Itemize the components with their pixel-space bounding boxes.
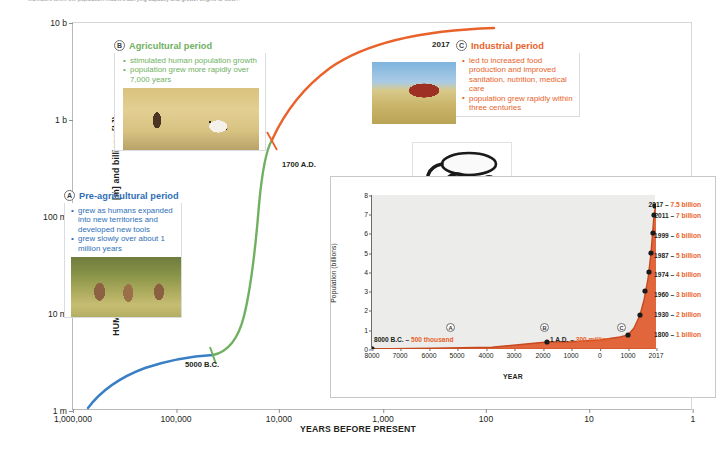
inset-y-tick: 3 (364, 288, 372, 295)
milestone-label: 1960 – 3 billion (654, 291, 701, 298)
inset-x-axis-label: YEAR (371, 373, 655, 380)
inset-badge-a: A (446, 323, 455, 332)
y-axis-tick: 10 b (50, 18, 73, 28)
callout-bullet: grew as humans expanded into new territo… (71, 206, 177, 234)
inset-chart: 8 7 6 5 4 3 2 1 0 8000 7000 6000 5000 40… (330, 176, 716, 398)
inset-x-tick: 2000 (535, 348, 550, 359)
inset-annotation-8000bc: 8000 B.C. – 500 thousand (374, 336, 454, 343)
callout-industrial: C Industrial period led to increased foo… (456, 40, 580, 117)
callout-bullets: led to increased food production and imp… (462, 56, 575, 112)
curve-tag-1700ad: 1700 A.D. (282, 160, 316, 169)
curve-tag-2017: 2017 (432, 40, 450, 49)
x-axis-tick: 100,000 (160, 409, 191, 424)
inset-badge-c: C (617, 323, 626, 332)
x-axis-tick: 1,000 (372, 409, 394, 424)
y-axis-tick: 1 b (55, 115, 73, 125)
top-caption-text: increases when the population reaches ca… (28, 0, 648, 7)
inset-badge-b: B (540, 323, 549, 332)
inset-x-tick: 7000 (392, 348, 407, 359)
callout-badge-a: A (64, 190, 75, 201)
inset-y-tick: 7 (364, 211, 372, 218)
callout-bullets: stimulated human population growth popul… (123, 56, 261, 84)
egyptian-farming-photo (123, 88, 259, 150)
inset-x-tick: 2017 (648, 348, 663, 359)
milestone-label: 1800 – 1 billion (654, 331, 701, 338)
x-axis-tick: 1,000,000 (54, 409, 92, 424)
figure-root: increases when the population reaches ca… (0, 0, 716, 452)
callout-pre-agricultural: A Pre-agricultural period grew as humans… (64, 190, 182, 318)
inset-y-tick: 6 (364, 230, 372, 237)
x-axis-tick: 10 (584, 409, 594, 424)
x-axis-tick: 1 (691, 409, 696, 424)
callout-bullets: grew as humans expanded into new territo… (71, 206, 177, 253)
hunter-gatherers-photo (71, 257, 181, 317)
callout-title: Agricultural period (129, 41, 212, 51)
inset-y-tick: 4 (364, 269, 372, 276)
callout-bullet: led to increased food production and imp… (462, 56, 575, 94)
callout-header: C Industrial period (456, 40, 580, 51)
inset-x-tick: 1000 (563, 348, 578, 359)
inset-x-tick: 1000 (620, 348, 635, 359)
combine-harvester-photo (372, 62, 456, 124)
callout-bullet: stimulated human population growth (123, 56, 261, 65)
callout-badge-c: C (456, 40, 467, 51)
callout-title: Pre-agricultural period (79, 191, 179, 201)
x-axis-tick: 10,000 (266, 409, 292, 424)
inset-y-tick: 5 (364, 250, 372, 257)
inset-y-axis-label: Population (billions) (330, 243, 337, 302)
callout-body: stimulated human population growth popul… (114, 53, 266, 151)
curve-tag-5000bc: 5000 B.C. (185, 360, 219, 369)
x-axis-label: YEARS BEFORE PRESENT (0, 424, 716, 434)
inset-x-tick: 6000 (421, 348, 436, 359)
inset-y-tick: 8 (364, 192, 372, 199)
inset-x-tick: 8000 (364, 348, 379, 359)
callout-body: led to increased food production and imp… (456, 53, 580, 117)
inset-x-tick: 4000 (478, 348, 493, 359)
callout-body: grew as humans expanded into new territo… (64, 203, 182, 318)
milestone-label: 2011 – 7 billion (654, 212, 701, 219)
inset-x-tick: 3000 (506, 348, 521, 359)
inset-y-tick: 2 (364, 307, 372, 314)
milestone-label: 1974 – 4 billion (654, 271, 701, 278)
x-axis-tick: 100 (479, 409, 493, 424)
callout-badge-b: B (114, 40, 125, 51)
inset-x-tick: 0 (598, 348, 602, 359)
inset-annotation-1ad: 1 A.D. – 300 million (550, 336, 610, 343)
milestone-label: 2017 – 7.5 billion (649, 201, 701, 208)
callout-header: B Agricultural period (114, 40, 266, 51)
inset-y-tick: 1 (364, 327, 372, 334)
inset-plot-area: 8 7 6 5 4 3 2 1 0 8000 7000 6000 5000 40… (371, 195, 655, 349)
callout-title: Industrial period (471, 41, 544, 51)
inset-area-curve (372, 195, 656, 349)
callout-bullet: grew slowly over about 1 million years (71, 234, 177, 253)
milestone-label: 1930 – 2 billion (654, 311, 701, 318)
callout-bullet: population grew more rapidly over 7,000 … (123, 65, 261, 84)
milestone-label: 1987 – 5 billion (654, 252, 701, 259)
milestone-label: 1999 – 6 billion (654, 232, 701, 239)
callout-header: A Pre-agricultural period (64, 190, 182, 201)
callout-agricultural: B Agricultural period stimulated human p… (114, 40, 266, 151)
callout-bullet: population grew rapidly within three cen… (462, 94, 575, 113)
inset-x-tick: 5000 (449, 348, 464, 359)
